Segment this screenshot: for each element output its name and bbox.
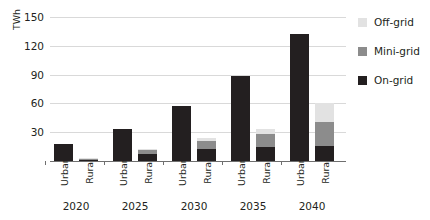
y-tick-90: 90 <box>14 70 44 80</box>
legend-swatch-on-icon <box>358 76 367 85</box>
x-tick-2025-urban: Urban <box>117 149 128 195</box>
x-group-label-2040: 2040 <box>284 200 340 212</box>
chart-legend: Off-gridMini-gridOn-grid <box>358 12 420 99</box>
x-group-label-2025: 2025 <box>107 200 163 212</box>
x-tickmark <box>222 161 223 165</box>
legend-label: Mini-grid <box>374 45 420 57</box>
plot-area <box>50 17 346 161</box>
x-tick-2020-urban: Urban <box>58 149 69 195</box>
x-group-label-2030: 2030 <box>166 200 222 212</box>
legend-item-on[interactable]: On-grid <box>358 70 420 90</box>
x-tick-2035-urban: Urban <box>235 149 246 195</box>
legend-label: Off-grid <box>374 16 414 28</box>
x-tickmark <box>163 161 164 165</box>
x-tick-2025-rural: Rural <box>142 149 153 195</box>
bar-2040-urban[interactable] <box>290 34 309 161</box>
bar-segment-on <box>290 34 309 161</box>
y-tick-60: 60 <box>14 98 44 108</box>
legend-item-off[interactable]: Off-grid <box>358 12 420 32</box>
x-group-label-2035: 2035 <box>225 200 281 212</box>
bar-segment-mini <box>256 134 275 146</box>
legend-swatch-off-icon <box>358 18 367 27</box>
y-tick-150: 150 <box>14 12 44 22</box>
legend-swatch-mini-icon <box>358 47 367 56</box>
x-tick-2040-rural: Rural <box>319 149 330 195</box>
stacked-bar-chart: TWh 150120906030 UrbanRural2020UrbanRura… <box>0 0 430 220</box>
x-tick-2030-urban: Urban <box>176 149 187 195</box>
x-tickmark <box>281 161 282 165</box>
x-tick-2030-rural: Rural <box>201 149 212 195</box>
bar-segment-mini <box>315 122 334 146</box>
x-tick-2020-rural: Rural <box>83 149 94 195</box>
x-tickmark <box>104 161 105 165</box>
x-tickmark <box>45 161 46 165</box>
x-tick-2035-rural: Rural <box>260 149 271 195</box>
x-tick-2040-urban: Urban <box>294 149 305 195</box>
bar-segment-off <box>315 103 334 121</box>
x-group-label-2020: 2020 <box>48 200 104 212</box>
legend-item-mini[interactable]: Mini-grid <box>358 41 420 61</box>
y-tick-120: 120 <box>14 41 44 51</box>
y-tick-30: 30 <box>14 127 44 137</box>
legend-label: On-grid <box>374 74 413 86</box>
